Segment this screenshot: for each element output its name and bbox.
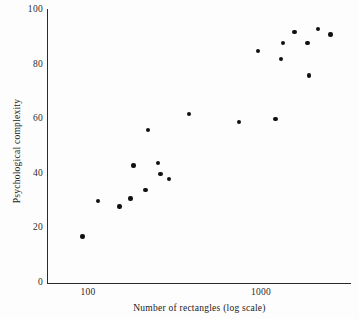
x-tick-label-1000: 1000 <box>251 288 271 298</box>
plot-area <box>48 10 351 283</box>
data-point <box>158 172 162 176</box>
data-point <box>328 32 332 36</box>
y-tick-label-100: 100 <box>3 5 43 15</box>
y-tick-label-60: 60 <box>3 114 43 124</box>
data-point <box>307 73 311 77</box>
data-point <box>143 188 147 192</box>
data-point <box>273 117 277 121</box>
data-point <box>292 30 296 34</box>
data-point <box>80 234 84 238</box>
data-point <box>131 163 135 167</box>
data-point <box>256 49 260 53</box>
data-point <box>187 112 191 116</box>
data-point <box>96 199 100 203</box>
y-tick-label-0: 0 <box>3 278 43 288</box>
y-tick-label-40: 40 <box>3 169 43 179</box>
data-point <box>156 161 160 165</box>
data-point <box>281 41 285 45</box>
y-axis-title: Psychological complexity <box>12 66 22 236</box>
scatter-plot-figure: 020406080100 Psychological complexity Nu… <box>0 0 359 319</box>
data-point <box>167 177 171 181</box>
y-tick-label-20: 20 <box>3 223 43 233</box>
data-point <box>146 128 150 132</box>
x-axis-title: Number of rectangles (log scale) <box>48 303 351 313</box>
y-tick-label-80: 80 <box>3 60 43 70</box>
data-point <box>128 196 132 200</box>
data-point <box>279 57 283 61</box>
x-axis-line <box>47 283 351 284</box>
data-point <box>117 204 121 208</box>
data-point <box>316 27 320 31</box>
data-point <box>305 41 309 45</box>
x-tick-label-100: 100 <box>80 288 95 298</box>
data-point <box>237 120 241 124</box>
